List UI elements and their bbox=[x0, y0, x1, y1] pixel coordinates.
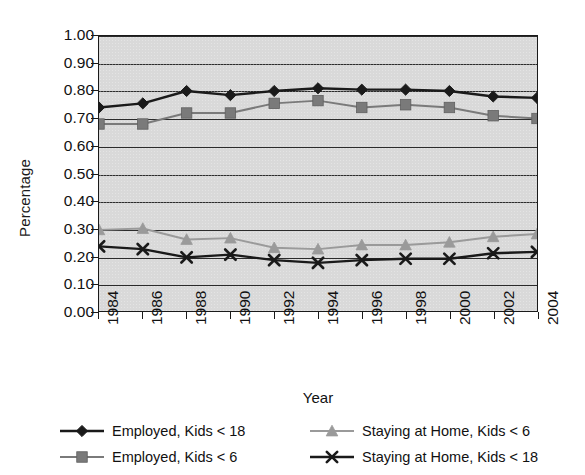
legend-item-1[interactable]: Employed, Kids < 6 bbox=[58, 448, 308, 466]
x-axis-title: Year bbox=[98, 389, 538, 406]
data-point-square bbox=[313, 95, 323, 105]
data-point-diamond bbox=[444, 85, 455, 96]
legend-label: Employed, Kids < 6 bbox=[112, 450, 237, 465]
data-point-diamond bbox=[76, 425, 87, 436]
legend-item-3[interactable]: Staying at Home, Kids < 18 bbox=[308, 448, 558, 466]
data-point-square bbox=[181, 108, 191, 118]
series-layer bbox=[99, 36, 537, 311]
legend-item-0[interactable]: Employed, Kids < 18 bbox=[58, 422, 308, 440]
legend-swatch-x-icon bbox=[308, 448, 356, 466]
legend-item-2[interactable]: Staying at Home, Kids < 6 bbox=[308, 422, 558, 440]
data-point-diamond bbox=[356, 84, 367, 95]
data-point-square bbox=[138, 119, 148, 129]
data-point-diamond bbox=[137, 98, 148, 109]
legend-swatch-square-icon bbox=[58, 448, 106, 466]
data-point-diamond bbox=[98, 102, 105, 113]
data-point-diamond bbox=[312, 83, 323, 94]
legend-label: Staying at Home, Kids < 18 bbox=[362, 450, 538, 465]
legend-label: Staying at Home, Kids < 6 bbox=[362, 424, 530, 439]
plot-area bbox=[98, 35, 538, 312]
data-point-square bbox=[488, 111, 498, 121]
series-2 bbox=[98, 223, 538, 254]
data-point-square bbox=[357, 102, 367, 112]
data-point-square bbox=[269, 98, 279, 108]
legend-label: Employed, Kids < 18 bbox=[112, 424, 245, 439]
data-point-square bbox=[98, 119, 104, 129]
chart-legend: Employed, Kids < 18Staying at Home, Kids… bbox=[58, 418, 558, 470]
data-point-square bbox=[400, 100, 410, 110]
data-point-square bbox=[225, 108, 235, 118]
chart-figure: Percentage 0.000.100.200.300.400.500.600… bbox=[0, 0, 585, 475]
data-point-diamond bbox=[269, 85, 280, 96]
data-point-diamond bbox=[181, 85, 192, 96]
data-point-square bbox=[77, 452, 88, 463]
data-point-diamond bbox=[400, 84, 411, 95]
data-point-diamond bbox=[488, 91, 499, 102]
series-1 bbox=[98, 95, 538, 129]
data-point-diamond bbox=[225, 90, 236, 101]
x-tick-label-2004: 2004 bbox=[545, 267, 561, 325]
data-point-square bbox=[444, 102, 454, 112]
legend-swatch-diamond-icon bbox=[58, 422, 106, 440]
legend-swatch-triangle-icon bbox=[308, 422, 356, 440]
